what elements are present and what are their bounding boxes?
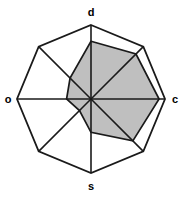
radar-chart: d c s o xyxy=(0,0,182,197)
axis-spokes-group xyxy=(17,25,165,173)
axis-label-south: s xyxy=(88,180,94,192)
axis-label-east: c xyxy=(172,93,178,105)
axis-label-west: o xyxy=(5,93,12,105)
axis-label-north: d xyxy=(88,6,95,18)
